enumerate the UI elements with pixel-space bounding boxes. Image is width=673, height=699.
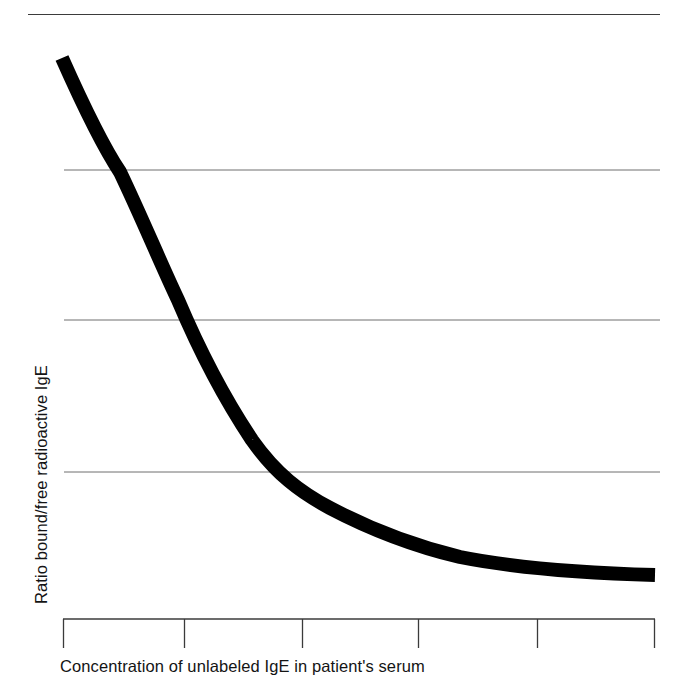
decay-curve (62, 58, 655, 575)
x-axis (63, 619, 655, 648)
x-axis-title: Concentration of unlabeled IgE in patien… (60, 655, 425, 677)
plot-area (0, 0, 673, 699)
gridlines (64, 170, 660, 472)
decay-curve-path (62, 58, 655, 575)
chart-figure: Ratio bound/free radioactive IgE Concent… (0, 0, 673, 699)
y-axis-title: Ratio bound/free radioactive IgE (28, 264, 54, 604)
plot-svg (0, 0, 673, 699)
